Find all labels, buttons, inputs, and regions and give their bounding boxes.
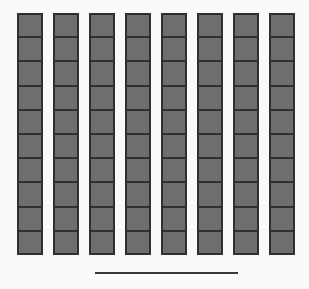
block-cell [233, 37, 259, 61]
block-cell [197, 134, 223, 158]
block-cell [53, 182, 79, 206]
block-cell [269, 37, 295, 61]
block-cell [17, 61, 43, 85]
block-cell [161, 37, 187, 61]
block-cell [53, 231, 79, 255]
block-cell [269, 207, 295, 231]
block-cell [197, 110, 223, 134]
block-cell [161, 207, 187, 231]
block-cell [197, 207, 223, 231]
block-cell [161, 13, 187, 37]
block-cell [233, 13, 259, 37]
block-cell [53, 110, 79, 134]
block-cell [17, 182, 43, 206]
block-cell [233, 134, 259, 158]
block-cell [125, 37, 151, 61]
block-cell [89, 13, 115, 37]
block-cell [17, 37, 43, 61]
block-cell [233, 158, 259, 182]
block-cell [125, 158, 151, 182]
block-cell [269, 182, 295, 206]
block-cell [197, 37, 223, 61]
block-cell [161, 182, 187, 206]
block-cell [125, 182, 151, 206]
block-cell [125, 86, 151, 110]
block-cell [233, 86, 259, 110]
column-5 [161, 13, 187, 255]
block-cell [17, 158, 43, 182]
block-cell [269, 158, 295, 182]
block-cell [233, 231, 259, 255]
block-cell [269, 86, 295, 110]
column-6 [197, 13, 223, 255]
block-cell [17, 110, 43, 134]
column-8 [269, 13, 295, 255]
block-cell [125, 134, 151, 158]
block-cell [161, 86, 187, 110]
block-cell [53, 207, 79, 231]
block-cell [269, 231, 295, 255]
block-cell [17, 86, 43, 110]
block-cell [161, 110, 187, 134]
block-cell [269, 110, 295, 134]
block-cell [89, 207, 115, 231]
block-cell [125, 231, 151, 255]
block-cell [125, 13, 151, 37]
block-cell [89, 86, 115, 110]
block-cell [197, 182, 223, 206]
block-cell [53, 37, 79, 61]
column-3 [89, 13, 115, 255]
column-7 [233, 13, 259, 255]
block-cell [17, 13, 43, 37]
block-cell [269, 13, 295, 37]
column-2 [53, 13, 79, 255]
block-cell [125, 110, 151, 134]
block-cell [53, 61, 79, 85]
diagram-canvas [0, 0, 309, 289]
block-cell [269, 134, 295, 158]
column-4 [125, 13, 151, 255]
block-column-group [0, 0, 309, 289]
block-cell [197, 158, 223, 182]
block-cell [17, 231, 43, 255]
block-cell [53, 86, 79, 110]
column-1 [17, 13, 43, 255]
block-cell [161, 134, 187, 158]
block-cell [89, 231, 115, 255]
block-cell [161, 231, 187, 255]
block-cell [197, 231, 223, 255]
block-cell [161, 61, 187, 85]
block-cell [17, 134, 43, 158]
block-cell [89, 182, 115, 206]
baseline-rule [95, 272, 238, 274]
block-cell [89, 134, 115, 158]
block-cell [161, 158, 187, 182]
block-cell [53, 13, 79, 37]
block-cell [125, 61, 151, 85]
block-cell [269, 61, 295, 85]
block-cell [233, 207, 259, 231]
block-cell [89, 158, 115, 182]
block-cell [125, 207, 151, 231]
block-cell [89, 37, 115, 61]
block-cell [233, 110, 259, 134]
block-cell [233, 61, 259, 85]
block-cell [89, 110, 115, 134]
block-cell [53, 134, 79, 158]
block-cell [53, 158, 79, 182]
block-cell [89, 61, 115, 85]
block-cell [233, 182, 259, 206]
block-cell [17, 207, 43, 231]
block-cell [197, 13, 223, 37]
block-cell [197, 61, 223, 85]
block-cell [197, 86, 223, 110]
